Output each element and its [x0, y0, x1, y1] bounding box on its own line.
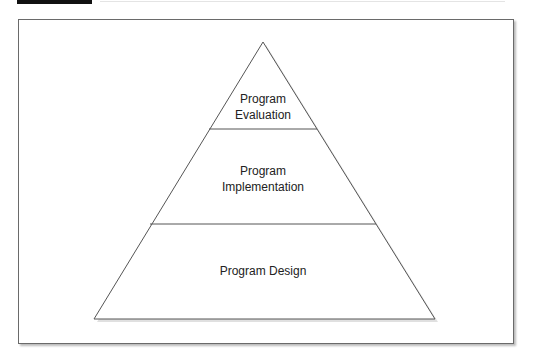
tier-label-implementation: Program Implementation — [193, 163, 333, 195]
tier-label-design: Program Design — [193, 263, 333, 279]
tier-label-line: Program Design — [193, 263, 333, 279]
tier-label-line: Program — [193, 163, 333, 179]
tier-label-evaluation: Program Evaluation — [213, 91, 313, 123]
tier-label-line: Implementation — [193, 179, 333, 195]
tier-label-line: Program — [213, 91, 313, 107]
tier-label-line: Evaluation — [213, 107, 313, 123]
